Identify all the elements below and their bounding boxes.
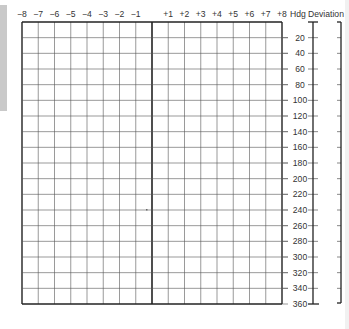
column-label: +5 (228, 9, 238, 19)
column-label: +3 (196, 9, 206, 19)
column-label: +2 (180, 9, 190, 19)
heading-header: Hdg (290, 9, 306, 19)
column-label: +4 (212, 9, 222, 19)
heading-label: 180 (293, 158, 308, 168)
column-label: +1 (163, 9, 173, 19)
column-label: −2 (115, 9, 125, 19)
heading-label: 300 (293, 252, 308, 262)
heading-label: 340 (293, 283, 308, 293)
column-label: −6 (50, 9, 60, 19)
heading-label: 240 (293, 205, 308, 215)
column-label: +8 (277, 9, 287, 19)
heading-label: 120 (293, 111, 308, 121)
heading-label: 260 (293, 221, 308, 231)
deviation-header: Deviation (308, 9, 344, 19)
heading-label: 40 (295, 48, 305, 58)
column-label: −1 (131, 9, 141, 19)
column-label: −4 (82, 9, 92, 19)
column-label: −3 (98, 9, 108, 19)
heading-label: 200 (293, 174, 308, 184)
heading-label: 100 (293, 95, 308, 105)
deviation-chart: −8−7−6−5−4−3−2−1+1+2+3+4+5+6+7+8HdgDevia… (0, 0, 349, 329)
heading-label: 160 (293, 142, 308, 152)
column-label: +6 (245, 9, 255, 19)
heading-label: 220 (293, 189, 308, 199)
heading-label: 140 (293, 127, 308, 137)
column-label: −5 (66, 9, 76, 19)
heading-label: 320 (293, 268, 308, 278)
heading-label: 20 (295, 33, 305, 43)
heading-label: 280 (293, 236, 308, 246)
column-label: +7 (261, 9, 271, 19)
heading-label: 60 (295, 64, 305, 74)
heading-label: 80 (295, 80, 305, 90)
column-label: −7 (33, 9, 43, 19)
stray-mark (146, 209, 148, 211)
column-label: −8 (17, 9, 27, 19)
heading-label: 360 (293, 299, 308, 309)
